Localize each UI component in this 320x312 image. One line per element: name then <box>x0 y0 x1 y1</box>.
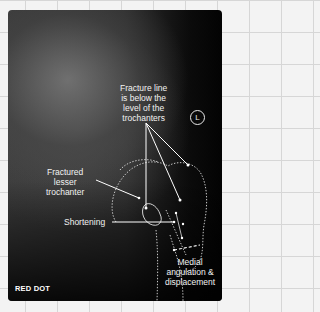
annotation-medial-angulation: Medial angulation & displacement <box>165 257 215 287</box>
femur-outline <box>112 162 207 272</box>
hip-xray-image: Fracture line is below the level of the … <box>8 10 222 301</box>
brand-label: RED DOT <box>15 284 50 293</box>
shaft-outline-left <box>156 230 158 301</box>
annotation-fractured-lesser-trochanter: Fractured lesser trochanter <box>46 167 84 197</box>
side-marker-left: L <box>190 110 205 125</box>
annotation-shortening: Shortening <box>64 217 105 227</box>
annotation-fracture-line: Fracture line is below the level of the … <box>120 83 167 123</box>
